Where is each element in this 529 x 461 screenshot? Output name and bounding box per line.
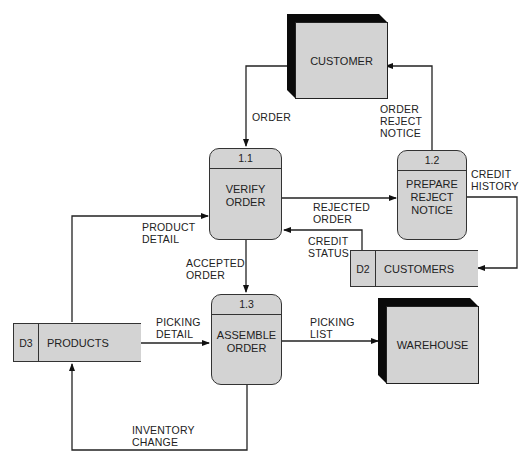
process-number: 1.3 [212,295,281,315]
entity-warehouse[interactable]: WAREHOUSE [378,298,478,383]
label-rejected-order: REJECTED ORDER [313,201,370,225]
label-order: ORDER [252,111,291,123]
datastore-label: CUSTOMERS [376,263,454,275]
flow-order [246,66,287,146]
datastore-id: D2 [351,251,376,286]
process-assemble-order[interactable]: 1.3 ASSEMBLE ORDER [211,294,282,385]
process-verify-order[interactable]: 1.1 VERIFY ORDER [209,148,282,240]
entity-customer[interactable]: CUSTOMER [287,14,387,98]
label-credit-status: CREDIT STATUS [308,235,349,259]
entity-label-customer: CUSTOMER [295,22,388,99]
datastore-customers[interactable]: D2 CUSTOMERS [350,250,478,287]
datastore-id: D3 [14,324,39,361]
process-label: VERIFY ORDER [210,169,281,209]
label-picking-list: PICKING LIST [310,316,355,340]
process-label: PREPARE REJECT NOTICE [398,171,466,217]
label-accepted-order: ACCEPTED ORDER [186,257,245,281]
entity-label-warehouse: WAREHOUSE [386,306,479,384]
label-inventory-change: INVENTORY CHANGE [132,424,195,448]
label-credit-history: CREDIT HISTORY [471,168,519,192]
label-product-detail: PRODUCT DETAIL [142,221,195,245]
process-prepare-reject-notice[interactable]: 1.2 PREPARE REJECT NOTICE [397,150,467,240]
label-order-reject-notice: ORDER REJECT NOTICE [380,103,422,139]
process-number: 1.2 [398,151,466,171]
datastore-products[interactable]: D3 PRODUCTS [13,323,141,362]
datastore-label: PRODUCTS [39,337,109,349]
process-label: ASSEMBLE ORDER [212,315,281,355]
label-picking-detail: PICKING DETAIL [156,316,201,340]
process-number: 1.1 [210,149,281,169]
